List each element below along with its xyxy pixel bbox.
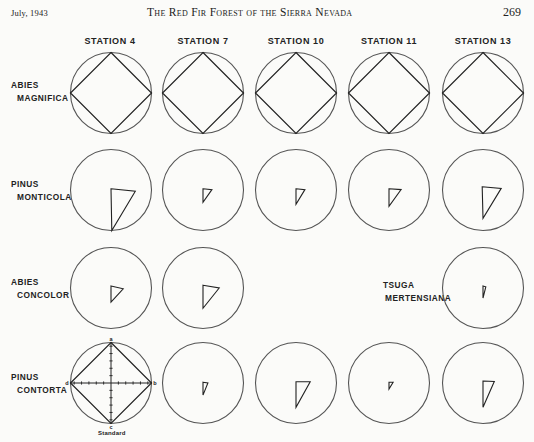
growth-polygon: [203, 285, 219, 308]
diagram-grid: abcd: [0, 0, 534, 442]
axis-label-b: b: [153, 380, 157, 386]
reference-circle: [71, 53, 152, 134]
growth-polygon: [389, 189, 401, 206]
growth-polygon: [296, 189, 305, 204]
reference-circle: [349, 53, 430, 134]
reference-circle: [163, 53, 244, 134]
growth-polygon: [482, 187, 501, 219]
reference-circle: [256, 53, 337, 134]
growth-polygon: [203, 382, 208, 395]
reference-circle: [443, 53, 524, 134]
growth-polygon: [483, 381, 494, 407]
growth-polygon: [111, 286, 123, 302]
growth-polygon: [203, 189, 212, 202]
growth-polygon: [483, 286, 486, 298]
growth-polygon: [296, 382, 310, 408]
axis-label-a: a: [109, 336, 113, 342]
axis-label-d: d: [65, 380, 68, 386]
standard-caption: Standard: [98, 430, 126, 436]
growth-polygon: [389, 382, 393, 389]
